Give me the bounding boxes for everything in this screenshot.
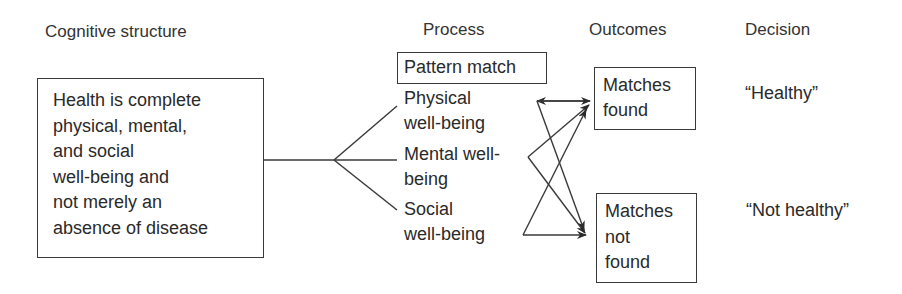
- process-mental-line-2: being: [404, 167, 448, 193]
- outcome-notfound-line-3: found: [605, 250, 650, 276]
- cognitive-line-4: well-being and: [53, 165, 169, 191]
- header-outcomes: Outcomes: [589, 20, 666, 40]
- arrow-physical-to-notfound: [537, 101, 584, 230]
- outcome-found-line-2: found: [603, 98, 648, 124]
- arrow-social-to-found: [523, 110, 586, 235]
- cognitive-structure-box: Health is complete physical, mental, and…: [37, 78, 264, 258]
- decision-not-healthy: “Not healthy”: [746, 198, 849, 224]
- process-physical-line-2: well-being: [404, 111, 485, 137]
- cognitive-line-6: absence of disease: [53, 216, 208, 242]
- decision-healthy: “Healthy”: [745, 81, 818, 107]
- outcome-matches-not-found-box: Matches not found: [596, 193, 697, 283]
- cognitive-line-3: and social: [53, 139, 134, 165]
- header-decision: Decision: [745, 20, 810, 40]
- arrow-mental-to-found: [528, 105, 589, 157]
- pattern-match-box: Pattern match: [397, 52, 547, 84]
- header-process: Process: [423, 20, 484, 40]
- outcome-notfound-line-2: not: [605, 225, 630, 251]
- cognitive-line-5: not merely an: [53, 190, 162, 216]
- outcome-found-line-1: Matches: [603, 73, 671, 99]
- cognitive-line-1: Health is complete: [53, 88, 201, 114]
- process-social-line-1: Social: [404, 197, 453, 223]
- branch-physical: [334, 106, 397, 160]
- cognitive-line-2: physical, mental,: [53, 114, 187, 140]
- pattern-match-label: Pattern match: [404, 55, 516, 81]
- outcome-matches-found-box: Matches found: [594, 67, 696, 130]
- header-cognitive-structure: Cognitive structure: [45, 22, 187, 42]
- process-mental-line-1: Mental well-: [404, 142, 500, 168]
- process-physical-line-1: Physical: [404, 86, 471, 112]
- process-social-line-2: well-being: [404, 222, 485, 248]
- branch-social: [334, 160, 397, 210]
- outcome-notfound-line-1: Matches: [605, 199, 673, 225]
